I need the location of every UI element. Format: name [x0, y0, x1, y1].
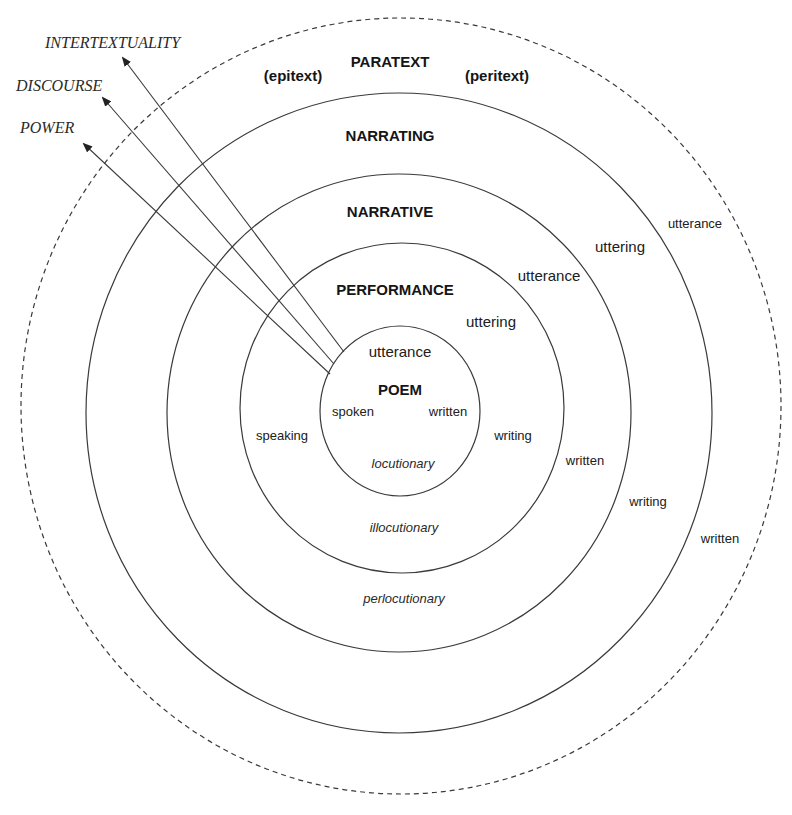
performance-uttering: uttering	[466, 313, 516, 330]
intertextuality-label: INTERTEXTUALITY	[44, 34, 182, 51]
paratext-utterance: utterance	[668, 216, 722, 231]
epitext-label: (epitext)	[264, 67, 322, 84]
narrative-written: written	[565, 453, 604, 468]
narrative-ring	[167, 174, 631, 652]
narrative-title: NARRATIVE	[347, 203, 433, 220]
narrating-title: NARRATING	[346, 127, 435, 144]
discourse-label: DISCOURSE	[15, 77, 102, 94]
narrating-writing: writing	[628, 494, 667, 509]
paratext-title: PARATEXT	[351, 53, 430, 70]
poem-utterance: utterance	[369, 343, 432, 360]
concentric-diagram: INTERTEXTUALITY DISCOURSE POWER PARATEXT…	[0, 0, 792, 815]
narrating-ring	[86, 93, 712, 733]
arrow-intertextuality	[123, 58, 344, 352]
spoken-label: spoken	[332, 404, 374, 419]
narrative-utterance: utterance	[518, 267, 581, 284]
performance-title: PERFORMANCE	[336, 281, 454, 298]
poem-title: POEM	[378, 381, 422, 398]
poem-written: written	[428, 404, 467, 419]
locutionary-label: locutionary	[372, 456, 436, 471]
speaking-label: speaking	[256, 428, 308, 443]
performance-writing: writing	[493, 428, 532, 443]
paratext-written: written	[700, 531, 739, 546]
arrow-power	[84, 144, 330, 374]
arrow-discourse	[103, 98, 334, 364]
narrating-uttering: uttering	[595, 238, 645, 255]
power-label: POWER	[19, 119, 74, 136]
peritext-label: (peritext)	[465, 67, 529, 84]
perlocutionary-label: perlocutionary	[362, 591, 446, 606]
illocutionary-label: illocutionary	[370, 520, 440, 535]
